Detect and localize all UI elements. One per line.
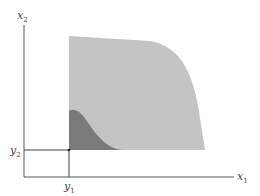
y2-label: y2 xyxy=(9,144,21,159)
y1-label: y1 xyxy=(63,180,75,195)
production-set-diagram: x2 x1 y2 y1 xyxy=(0,0,260,196)
y-axis-label: x2 xyxy=(17,9,28,24)
point-y xyxy=(68,149,71,152)
x-axis-label: x1 xyxy=(237,170,248,185)
